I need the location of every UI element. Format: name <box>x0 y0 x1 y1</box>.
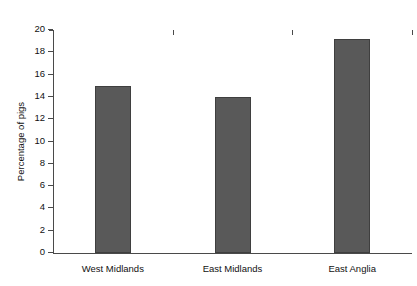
y-axis-tick-label: 8 <box>40 156 45 169</box>
y-axis-tick: 8 <box>48 163 53 164</box>
x-axis-tick <box>173 30 174 35</box>
y-axis-tick: 20 <box>48 29 53 30</box>
y-axis-tick-label: 10 <box>34 134 45 147</box>
x-axis-line <box>53 253 412 254</box>
y-axis-tick: 16 <box>48 74 53 75</box>
bar <box>215 97 251 253</box>
y-axis-tick-label: 2 <box>40 223 45 236</box>
y-axis-tick: 18 <box>48 51 53 52</box>
y-axis-tick-label: 18 <box>34 44 45 57</box>
clipped-caption-text <box>46 0 406 3</box>
bar <box>95 86 131 253</box>
x-axis-category-label: West Midlands <box>82 262 144 275</box>
y-axis-tick: 4 <box>48 207 53 208</box>
bar <box>334 39 370 253</box>
x-axis-tick <box>292 30 293 35</box>
plot-area: 02468101214161820 <box>53 30 412 253</box>
bar-chart-figure: Percentage of pigs 02468101214161820 Wes… <box>0 0 417 286</box>
y-axis-tick: 10 <box>48 141 53 142</box>
x-axis-category-label: East Midlands <box>203 262 263 275</box>
y-axis-title: Percentage of pigs <box>14 30 28 253</box>
y-axis-tick-label: 16 <box>34 67 45 80</box>
y-axis-tick-label: 14 <box>34 89 45 102</box>
y-axis-tick: 12 <box>48 118 53 119</box>
y-axis-tick-label: 6 <box>40 178 45 191</box>
y-axis-tick-label: 0 <box>40 245 45 258</box>
x-axis-category-label: East Anglia <box>328 262 376 275</box>
y-axis-tick: 2 <box>48 230 53 231</box>
y-axis-tick: 14 <box>48 96 53 97</box>
y-axis-tick-label: 20 <box>34 22 45 35</box>
y-axis-tick: 6 <box>48 185 53 186</box>
y-axis-tick-label: 4 <box>40 200 45 213</box>
y-axis-tick-label: 12 <box>34 111 45 124</box>
x-axis-tick <box>412 30 413 35</box>
y-axis-tick: 0 <box>48 252 53 253</box>
